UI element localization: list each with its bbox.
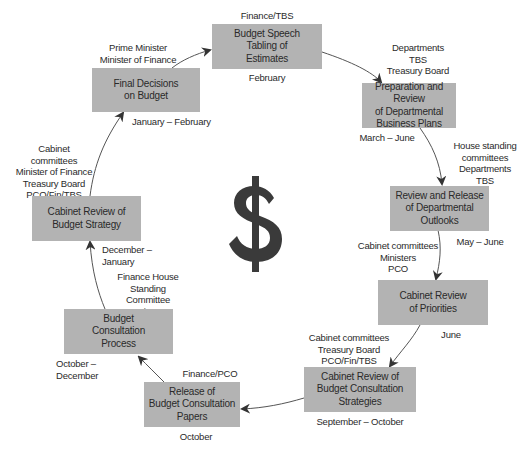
arrow-papers-to-process — [139, 357, 164, 382]
step-title: Budget Consultation Process — [92, 313, 145, 351]
timing-cabinet-review-priorities: June — [436, 329, 466, 341]
actors-final-decisions: Prime Minister Minister of Finance — [98, 42, 178, 65]
timing-consultation-process: October – December — [56, 358, 136, 381]
step-title: Release of Budget Consultation Papers — [149, 386, 235, 424]
arrow-strategies-to-papers — [242, 398, 304, 409]
actors-preparation-review: Departments TBS Treasury Board — [378, 42, 458, 77]
step-cabinet-review-priorities: Cabinet Review of Priorities — [378, 280, 488, 325]
actors-cabinet-review-priorities: Cabinet committees Ministers PCO — [355, 240, 441, 275]
timing-final-decisions: January – February — [132, 116, 212, 128]
step-title: Cabinet Review of Budget Strategy — [48, 206, 126, 231]
step-consultation-process: Budget Consultation Process — [64, 309, 173, 354]
actors-budget-strategy: Cabinet committees Minister of Finance T… — [14, 143, 94, 201]
step-title: Final Decisions on Budget — [114, 78, 179, 103]
step-release-papers: Release of Budget Consultation Papers — [144, 382, 240, 427]
actors-release-papers: Finance/PCO — [180, 368, 240, 380]
step-final-decisions: Final Decisions on Budget — [92, 68, 200, 112]
step-title: Review and Release of Departmental Outlo… — [395, 190, 483, 228]
timing-budget-speech: February — [222, 72, 312, 84]
step-budget-speech: Budget Speech Tabling of Estimates — [212, 24, 322, 69]
actors-budget-speech: Finance/TBS — [222, 10, 312, 22]
arrow-strategy-to-decisions — [90, 113, 123, 196]
actors-consultation-strategies: Cabinet committees Treasury Board PCO/Fi… — [306, 332, 392, 367]
dollar-sign-icon — [226, 174, 286, 274]
timing-budget-strategy: December – January — [102, 244, 182, 267]
step-title: Cabinet Review of Priorities — [399, 290, 466, 315]
step-preparation-review: Preparation and Review of Departmental B… — [362, 83, 456, 128]
actors-review-release: House standing committees Departments TB… — [450, 140, 519, 186]
budget-cycle-diagram: Finance/TBS Budget Speech Tabling of Est… — [0, 0, 519, 452]
timing-preparation-review: March – June — [352, 132, 422, 144]
step-review-release: Review and Release of Departmental Outlo… — [390, 186, 489, 231]
timing-consultation-strategies: September – October — [310, 416, 410, 428]
step-consultation-strategies: Cabinet Review of Budget Consultation St… — [304, 367, 416, 412]
arrow-priorities-to-strategies — [390, 325, 420, 366]
timing-release-papers: October — [176, 431, 216, 443]
step-budget-strategy: Cabinet Review of Budget Strategy — [32, 196, 141, 241]
step-title: Preparation and Review of Departmental B… — [362, 81, 456, 131]
arrow-preparation-to-outlooks — [420, 128, 442, 184]
timing-review-release: May – June — [450, 236, 510, 248]
arrow-speech-to-preparation — [322, 52, 381, 82]
step-title: Budget Speech Tabling of Estimates — [234, 28, 300, 66]
step-title: Cabinet Review of Budget Consultation St… — [317, 371, 403, 409]
